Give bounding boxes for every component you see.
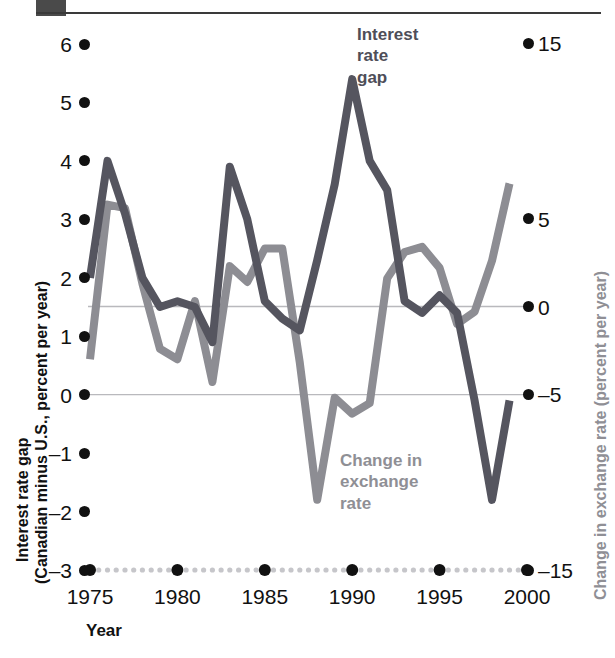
y-axis-tick-dot (79, 97, 90, 108)
y-axis-tick-label: 3 (40, 209, 72, 230)
y2-axis-tick-label: –5 (538, 384, 561, 405)
annotation-change-in-exchange-rate: Change in exchange rate (340, 450, 422, 514)
x-tick-dot-minor (463, 567, 468, 572)
x-tick-dot-minor (481, 567, 486, 572)
x-axis-title: Year (86, 621, 122, 641)
y2-axis-tick-dot (523, 301, 534, 312)
y2-axis-tick-dot (523, 389, 534, 400)
x-tick-dot-minor (288, 567, 293, 572)
y2-axis-tick-label: 0 (538, 297, 550, 318)
x-tick-dot-minor (245, 567, 250, 572)
x-tick-dot-minor (472, 567, 477, 572)
x-tick-dot-minor (393, 567, 398, 572)
x-tick-dot-minor (122, 567, 127, 572)
x-tick-dot-minor (297, 567, 302, 572)
y-axis-tick-dot (79, 448, 90, 459)
y2-axis-tick-label: 5 (538, 209, 550, 230)
y-axis-tick-label: 5 (40, 92, 72, 113)
annotation-line: Interest (357, 24, 418, 45)
x-tick-dot-minor (498, 567, 503, 572)
y-axis-title-line2: (Canadian minus U.S., percent per year) (33, 281, 51, 584)
x-tick-dot-minor (166, 567, 171, 572)
x-tick-dot-minor (201, 567, 206, 572)
x-tick-dot-minor (385, 567, 390, 572)
x-tick-dot-minor (323, 567, 328, 572)
y-axis-title-line1: Interest rate gap (14, 438, 32, 562)
x-tick-dot-minor (184, 567, 189, 572)
x-axis-tick-label: 1995 (410, 586, 470, 607)
annotation-interest-rate-gap: Interest rate gap (357, 24, 418, 88)
y-axis-tick-dot (79, 214, 90, 225)
x-tick-dot-minor (114, 567, 119, 572)
x-tick-dot-minor (516, 567, 521, 572)
x-tick-dot-minor (254, 567, 259, 572)
x-tick-dot-major (434, 564, 446, 576)
x-tick-dot-minor (446, 567, 451, 572)
x-tick-dot-minor (507, 567, 512, 572)
x-tick-dot-minor (210, 567, 215, 572)
annotation-line: rate (357, 45, 418, 66)
y2-axis-tick-dot (523, 38, 534, 49)
x-tick-dot-minor (96, 567, 101, 572)
x-axis-dotted-baseline (84, 564, 533, 576)
y2-axis-tick-label: –15 (538, 560, 573, 581)
y-axis-tick-dot (79, 506, 90, 517)
x-tick-dot-minor (306, 567, 311, 572)
annotation-line: exchange (340, 471, 422, 492)
y2-axis-tick-dot (523, 565, 534, 576)
x-tick-dot-minor (280, 567, 285, 572)
plot-area (0, 0, 615, 658)
x-tick-dot-minor (219, 567, 224, 572)
x-tick-dot-minor (428, 567, 433, 572)
y2-axis-tick-label: 15 (538, 33, 561, 54)
annotation-line: gap (357, 67, 418, 88)
x-tick-dot-minor (489, 567, 494, 572)
x-tick-dot-minor (420, 567, 425, 572)
x-tick-dot-minor (411, 567, 416, 572)
x-tick-dot-minor (149, 567, 154, 572)
annotation-line: Change in (340, 450, 422, 471)
x-axis-tick-label: 1985 (235, 586, 295, 607)
x-tick-dot-minor (192, 567, 197, 572)
x-axis-tick-label: 1990 (322, 586, 382, 607)
y-axis-tick-label: 6 (40, 34, 72, 55)
annotation-line: rate (340, 493, 422, 514)
x-tick-dot-minor (236, 567, 241, 572)
x-tick-dot-minor (271, 567, 276, 572)
y-axis-tick-dot (79, 331, 90, 342)
x-tick-dot-minor (105, 567, 110, 572)
x-tick-dot-minor (131, 567, 136, 572)
figure-root: 6543210–1–2–3 1550–5–15 1975198019851990… (0, 0, 615, 658)
y-axis-tick-dot (79, 565, 90, 576)
x-tick-dot-minor (157, 567, 162, 572)
x-tick-dot-minor (367, 567, 372, 572)
x-axis-tick-label: 1980 (147, 586, 207, 607)
y2-axis-title: Change in exchange rate (percent per yea… (592, 271, 610, 600)
x-tick-dot-minor (402, 567, 407, 572)
x-tick-dot-minor (332, 567, 337, 572)
x-axis-tick-label: 2000 (497, 586, 557, 607)
x-tick-dot-minor (341, 567, 346, 572)
x-tick-dot-major (171, 564, 183, 576)
y-axis-tick-label: 4 (40, 151, 72, 172)
x-tick-dot-minor (455, 567, 460, 572)
x-tick-dot-major (346, 564, 358, 576)
chart-canvas (0, 0, 615, 658)
x-tick-dot-minor (227, 567, 232, 572)
x-tick-dot-minor (140, 567, 145, 572)
series-layer (90, 79, 510, 500)
y-axis-tick-dot (79, 39, 90, 50)
x-axis-tick-label: 1975 (60, 586, 120, 607)
x-tick-dot-minor (315, 567, 320, 572)
x-tick-dot-major (259, 564, 271, 576)
x-tick-dot-minor (376, 567, 381, 572)
x-tick-dot-minor (358, 567, 363, 572)
series-line-change-in-exchange-rate (90, 184, 510, 500)
